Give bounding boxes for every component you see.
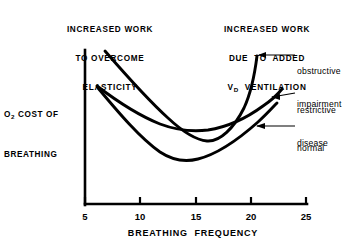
note-elasticity-line2: TO OVERCOME — [46, 54, 174, 64]
note-vd-line1: INCREASED WORK — [198, 25, 336, 35]
curve-label-normal-line1: normal — [297, 143, 359, 154]
y-axis-o: O — [4, 110, 11, 119]
curve-label-obstructive-line1: obstructive — [297, 66, 359, 77]
y-axis-title-line1: O2 COST OF — [4, 108, 84, 122]
x-tick-label-10: 10 — [128, 211, 152, 222]
x-axis-title: BREATHING FREQUENCY — [78, 228, 308, 239]
x-tick-label-5: 5 — [73, 211, 97, 222]
chart-figure: INCREASED WORK TO OVERCOME ELASTICITY IN… — [0, 0, 360, 250]
curve-label-normal: normal — [297, 122, 359, 176]
y-axis-cost-of: COST OF — [15, 110, 58, 119]
y-axis-title: O2 COST OF BREATHING — [4, 82, 84, 187]
y-axis-title-line2: BREATHING — [4, 148, 84, 161]
callout-leader-normal — [256, 123, 295, 129]
curve-label-restrictive-line1: restrictive — [297, 105, 359, 116]
x-tick-label-25: 25 — [294, 211, 318, 222]
note-elasticity-line1: INCREASED WORK — [46, 25, 174, 35]
x-tick-label-15: 15 — [184, 211, 208, 222]
x-tick-label-20: 20 — [239, 211, 263, 222]
